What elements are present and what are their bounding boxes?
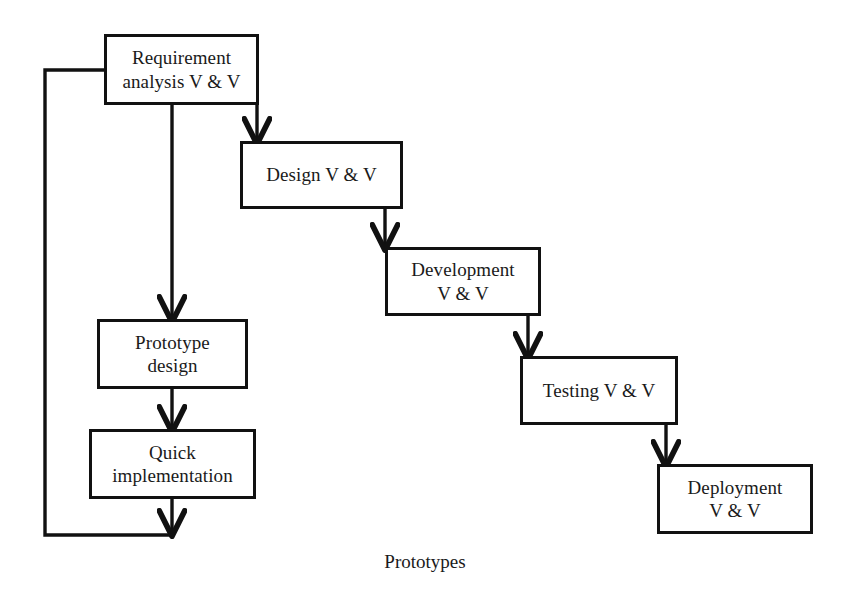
node-development: Development V & V: [385, 247, 541, 316]
diagram-caption: Prototypes: [325, 551, 525, 573]
node-requirement-analysis-label: Requirement analysis V & V: [116, 46, 246, 92]
node-design-label: Design V & V: [260, 163, 382, 186]
node-prototype-design-label: Prototype design: [129, 331, 216, 377]
node-design: Design V & V: [240, 141, 403, 209]
node-prototype-design: Prototype design: [97, 319, 248, 389]
node-development-label: Development V & V: [405, 258, 520, 304]
node-quick-implementation-label: Quick implementation: [106, 441, 239, 487]
node-requirement-analysis: Requirement analysis V & V: [104, 34, 259, 105]
node-deployment: Deployment V & V: [657, 464, 813, 534]
node-testing: Testing V & V: [520, 356, 678, 425]
node-deployment-label: Deployment V & V: [682, 476, 789, 522]
prototyping-model-diagram: Requirement analysis V & V Design V & V …: [0, 0, 857, 610]
node-quick-implementation: Quick implementation: [89, 429, 256, 499]
node-testing-label: Testing V & V: [537, 379, 661, 402]
